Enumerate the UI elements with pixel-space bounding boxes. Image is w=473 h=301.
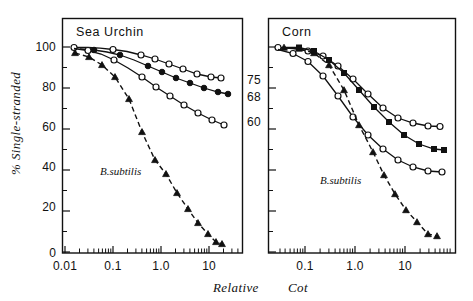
x-tick-label-0.1-right: 0.1 <box>296 259 313 273</box>
series-corn-60 <box>278 50 445 176</box>
x-ticks-right <box>280 246 450 253</box>
x-axis-label-relative: Relative <box>212 280 259 295</box>
y-axis-label: % Single-stranded <box>8 72 23 175</box>
x-axis-label-cot: Cot <box>288 280 308 295</box>
x-tick-label-1.0-right: 1.0 <box>346 259 363 273</box>
y-tick-label-60: 60 <box>42 120 56 134</box>
x-tick-label-0.01: 0.01 <box>53 259 77 273</box>
x-ticks-left <box>65 246 238 253</box>
annotation-bsubtilis-left: B.subtilis <box>100 165 141 177</box>
figure-root: % Single-stranded 100 80 60 40 20 0 <box>0 0 473 301</box>
x-tick-label-10-right: 10 <box>398 259 412 273</box>
panel-title-corn: Corn <box>282 25 312 39</box>
y-ticks-right <box>269 47 277 252</box>
x-axis-label: Relative Cot <box>212 280 308 295</box>
y-tick-label-80: 80 <box>42 80 56 94</box>
x-tick-label-10: 10 <box>202 259 216 273</box>
y-axis-tick-labels: 100 80 60 40 20 0 <box>35 40 56 260</box>
panel-sea-urchin: 0.01 0.1 1.0 10 Sea Urchin <box>53 19 243 274</box>
legend-label-75: 75 <box>247 73 261 87</box>
panel-title-sea-urchin: Sea Urchin <box>76 25 144 39</box>
y-ticks-left <box>63 47 71 252</box>
legend: 75 68 60 <box>247 73 261 129</box>
panel-corn: 0.1 1.0 10 Corn <box>269 19 456 274</box>
y-tick-label-0: 0 <box>49 246 56 260</box>
x-tick-label-0.1: 0.1 <box>104 259 121 273</box>
series-sea-urchin-bsubtilis <box>72 50 226 247</box>
y-tick-label-20: 20 <box>42 200 56 214</box>
legend-label-68: 68 <box>247 90 261 104</box>
y-tick-label-40: 40 <box>42 160 56 174</box>
hybridization-kinetics-figure: % Single-stranded 100 80 60 40 20 0 <box>0 0 473 301</box>
x-axis-tick-labels-right: 0.1 1.0 10 <box>296 259 412 273</box>
annotation-bsubtilis-right: B.subtilis <box>320 174 361 186</box>
x-axis-tick-labels-left: 0.01 0.1 1.0 10 <box>53 259 216 273</box>
legend-label-60: 60 <box>247 115 261 129</box>
x-tick-label-1.0: 1.0 <box>152 259 169 273</box>
y-tick-label-100: 100 <box>35 40 56 54</box>
